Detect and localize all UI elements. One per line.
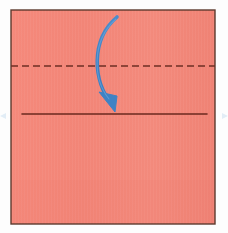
square-sheet bbox=[11, 10, 215, 224]
origami-diagram: Origami fold step bbox=[0, 0, 228, 233]
diagram-canvas bbox=[0, 0, 228, 233]
paper-shading bbox=[12, 180, 215, 223]
